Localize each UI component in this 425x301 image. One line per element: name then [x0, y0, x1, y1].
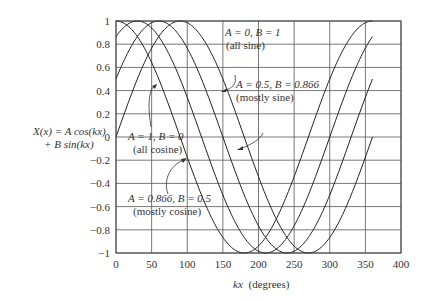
arrowhead-icon	[237, 146, 243, 150]
x-tick-label: 350	[357, 258, 374, 270]
annotation-mostly-cosine-arrow	[166, 160, 184, 194]
annotation-all-cosine-params: A = 1, B = 0	[127, 130, 184, 142]
x-tick-label: 250	[286, 258, 303, 270]
y-tick-label: −0.8	[90, 224, 110, 236]
annotation-mostly-sine-params: A = 0.5, B = 0.866	[235, 78, 320, 90]
x-tick-label: 300	[322, 258, 339, 270]
x-axis-label: kx (degrees)	[233, 278, 290, 291]
x-axis-ticks: 050100150200250300350400	[113, 258, 410, 270]
y-tick-label: −0.2	[90, 154, 110, 166]
y-tick-label: −0.6	[90, 201, 110, 213]
x-tick-label: 100	[179, 258, 196, 270]
annotation-all-cosine: A = 1, B = 0 (all cosine)	[127, 84, 184, 156]
annotation-mostly-sine-desc: (mostly sine)	[236, 91, 294, 104]
y-tick-label: −1	[98, 247, 110, 259]
y-axis-label-line1: X(x) = A cos(kx)	[32, 125, 106, 138]
x-tick-label: 150	[215, 258, 232, 270]
y-tick-label: 0.8	[96, 38, 110, 50]
y-tick-label: 0.6	[96, 61, 110, 73]
x-tick-label: 0	[113, 258, 119, 270]
x-tick-label: 400	[393, 258, 410, 270]
arrowhead-icon	[221, 88, 227, 92]
y-tick-label: −0.4	[90, 177, 110, 189]
x-axis-label-unit: (degrees)	[249, 278, 290, 291]
chart: 050100150200250300350400 10.80.60.40.20−…	[0, 0, 425, 301]
y-tick-label: 1	[105, 15, 111, 27]
annotation-mostly-cosine-params: A = 0.866, B = 0.5	[127, 192, 212, 204]
annotation-all-sine-desc: (all sine)	[226, 39, 265, 52]
y-tick-label: 0.4	[96, 85, 110, 97]
y-axis-label-line2: + B sin(kx)	[44, 138, 94, 151]
x-tick-label: 50	[146, 258, 158, 270]
y-tick-label: 0.2	[96, 108, 110, 120]
y-axis-ticks: 10.80.60.40.20−0.2−0.4−0.6−0.8−1	[90, 15, 110, 259]
annotation-all-sine-arrow	[224, 75, 235, 91]
annotation-all-cosine-desc: (all cosine)	[133, 143, 183, 156]
arrowhead-icon	[152, 84, 157, 89]
annotation-all-sine-params: A = 0, B = 1	[224, 26, 281, 38]
x-axis-label-var: kx	[233, 278, 243, 290]
x-tick-label: 200	[250, 258, 267, 270]
annotation-mostly-cosine-desc: (mostly cosine)	[133, 205, 201, 218]
